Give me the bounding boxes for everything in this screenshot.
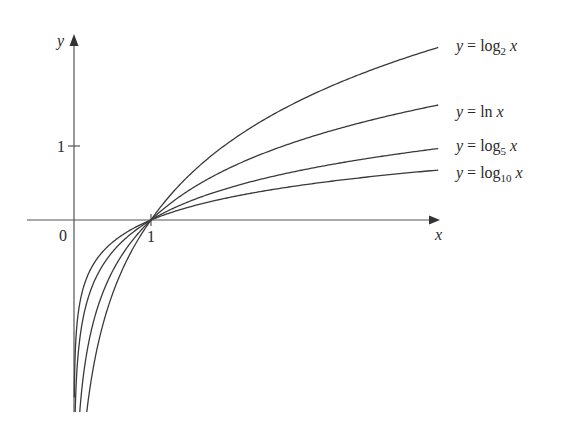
curves [74, 47, 438, 414]
curve-y-log2-x [86, 47, 438, 414]
x-tick-label-1: 1 [147, 228, 155, 245]
y-axis-arrow-icon [70, 34, 79, 46]
series-labels: y = log2 x y = ln x y = log5 x y = log10… [454, 37, 523, 184]
y-tick-label-1: 1 [57, 138, 65, 155]
curve-y-log10-x [74, 170, 438, 397]
label-ln: y = ln x [454, 103, 504, 121]
x-axis-arrow-icon [429, 216, 440, 225]
log-functions-chart: y x 1 0 1 y = log2 x y = ln x y = log5 x… [0, 0, 573, 424]
curve-y-ln-x [80, 105, 439, 413]
y-axis-label: y [55, 32, 65, 50]
x-axis-label: x [434, 226, 442, 243]
curve-y-log5-x [75, 149, 438, 414]
x-tick-label-0: 0 [59, 227, 67, 244]
label-log5: y = log5 x [454, 137, 517, 157]
axes [27, 42, 432, 412]
label-log10: y = log10 x [454, 164, 523, 184]
label-log2: y = log2 x [454, 37, 517, 57]
